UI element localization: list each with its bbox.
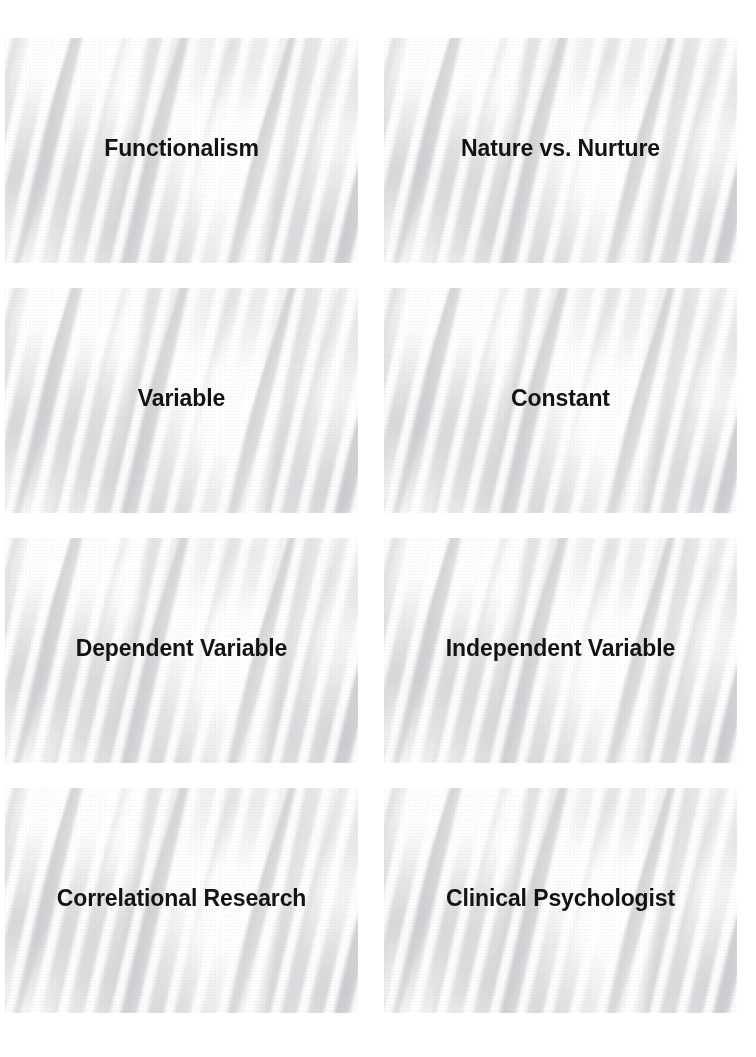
flashcard-label: Dependent Variable — [76, 636, 288, 661]
flashcard[interactable]: Constant — [384, 288, 737, 513]
flashcard[interactable]: Dependent Variable — [5, 538, 358, 763]
flashcard-label: Functionalism — [104, 136, 259, 161]
flashcard-grid: Functionalism Nature vs. Nurture Variabl… — [5, 38, 737, 1013]
flashcard[interactable]: Clinical Psychologist — [384, 788, 737, 1013]
flashcard[interactable]: Independent Variable — [384, 538, 737, 763]
flashcard[interactable]: Functionalism — [5, 38, 358, 263]
flashcard[interactable]: Correlational Research — [5, 788, 358, 1013]
flashcard-sheet: Functionalism Nature vs. Nurture Variabl… — [0, 0, 756, 1057]
flashcard-label: Clinical Psychologist — [446, 886, 675, 911]
flashcard[interactable]: Nature vs. Nurture — [384, 38, 737, 263]
flashcard-label: Independent Variable — [446, 636, 675, 661]
flashcard-label: Nature vs. Nurture — [461, 136, 660, 161]
flashcard[interactable]: Variable — [5, 288, 358, 513]
flashcard-label: Variable — [138, 386, 225, 411]
flashcard-label: Constant — [511, 386, 610, 411]
flashcard-label: Correlational Research — [57, 886, 307, 911]
